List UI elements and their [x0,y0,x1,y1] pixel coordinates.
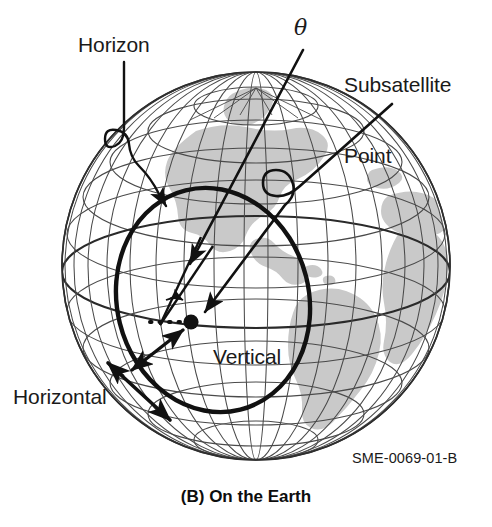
figure-root: Horizon Subsatellite Point θ Vertical Ho… [0,0,492,527]
figure-reference-code: SME-0069-01-B [352,450,457,466]
figure-caption: (B) On the Earth [0,487,492,507]
label-subsatellite-point-line1: Subsatellite [344,73,451,97]
label-subsatellite-point: Subsatellite Point [344,26,451,214]
label-horizon: Horizon [78,33,150,57]
label-vertical: Vertical [213,345,281,369]
label-subsatellite-point-line2: Point [344,144,451,168]
label-horizontal: Horizontal [13,385,107,409]
subsatellite-point-dot [183,314,198,329]
label-theta: θ [294,16,307,41]
